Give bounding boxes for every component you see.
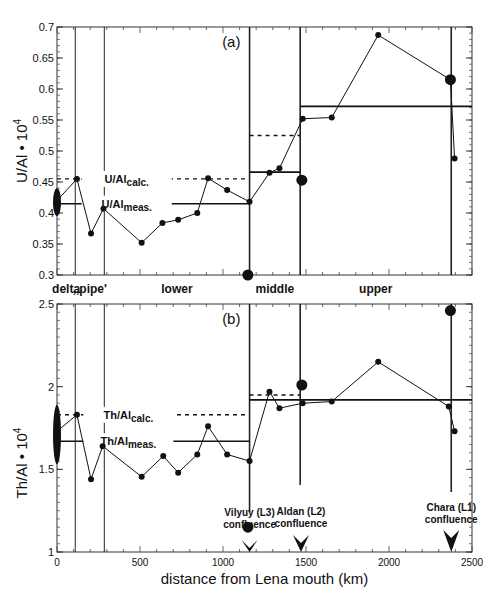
y-tick-label: 0.55 <box>33 114 54 126</box>
data-point <box>452 155 458 161</box>
y-tick-label: 0.45 <box>33 176 54 188</box>
data-point <box>205 175 211 181</box>
x-tick-label: 1000 <box>212 557 235 568</box>
y-axis-title: Th/Al • 104 <box>12 427 30 498</box>
data-point <box>88 476 94 482</box>
data-point <box>160 453 166 459</box>
svg-text:confluence: confluence <box>275 518 328 529</box>
confluence-arrow-icon <box>293 535 309 552</box>
tributary-point <box>242 270 253 281</box>
data-point <box>194 210 200 216</box>
data-point <box>375 32 381 38</box>
svg-text:confluence: confluence <box>425 514 478 525</box>
data-point <box>300 400 306 406</box>
panel-label: (a) <box>222 33 240 50</box>
data-point <box>175 470 181 476</box>
data-point <box>452 428 458 434</box>
river-sections: delta,,pipe'lowermiddleupper <box>52 282 393 296</box>
confluence-arrow-icon <box>242 540 258 552</box>
plot-frame <box>57 27 472 275</box>
confluence-label: Chara (L1) <box>427 502 476 513</box>
section-label: lower <box>161 282 193 296</box>
data-point <box>100 443 106 449</box>
x-tick-label: 500 <box>132 557 149 568</box>
x-tick-label: 1500 <box>295 557 318 568</box>
confluence-label: Aldan (L2) <box>277 506 326 517</box>
data-point <box>100 206 106 212</box>
confluence-label: Vilyuy (L3) <box>224 507 274 518</box>
y-axis-title: U/Al • 104 <box>12 118 30 183</box>
data-point <box>266 389 272 395</box>
data-point <box>74 412 80 418</box>
y-tick-label: 0.6 <box>39 83 54 95</box>
data-point <box>247 199 253 205</box>
data-point <box>446 404 452 410</box>
section-label: middle <box>256 282 295 296</box>
data-point <box>224 187 230 193</box>
data-point <box>276 165 282 171</box>
panel-label: (b) <box>222 310 240 327</box>
tributary-point <box>445 74 456 85</box>
panel-a-u-al: 0.30.350.40.450.50.550.60.650.7U/Al • 10… <box>12 21 472 281</box>
data-point <box>175 217 181 223</box>
data-point <box>88 230 94 236</box>
delta-range-marker <box>53 188 61 216</box>
confluence-markers: Vilyuy (L3)confluenceAldan (L2)confluenc… <box>223 502 478 552</box>
y-tick-label: 0.3 <box>39 269 54 281</box>
y-tick-label: 0.7 <box>39 21 54 33</box>
data-point <box>194 451 200 457</box>
y-tick-label: 2 <box>48 381 54 393</box>
x-axis-title: distance from Lena mouth (km) <box>161 570 369 587</box>
data-point <box>375 359 381 365</box>
data-point <box>329 399 335 405</box>
data-point <box>224 451 230 457</box>
section-label: upper <box>359 282 393 296</box>
confluence-arrow-icon <box>443 530 459 552</box>
y-tick-label: 0.35 <box>33 238 54 250</box>
data-point <box>139 474 145 480</box>
data-point <box>74 176 80 182</box>
data-point <box>139 240 145 246</box>
data-point <box>159 220 165 226</box>
y-tick-label: 1.5 <box>39 463 54 475</box>
x-tick-label: 0 <box>54 557 60 568</box>
tributary-point <box>445 305 456 316</box>
svg-text:confluence: confluence <box>223 519 276 530</box>
x-tick-label: 2000 <box>378 557 401 568</box>
tributary-point <box>296 380 307 391</box>
delta-range-marker <box>53 405 61 465</box>
data-point <box>300 116 306 122</box>
data-point <box>276 405 282 411</box>
lena-river-chart: 0.30.350.40.450.50.550.60.650.7U/Al • 10… <box>0 0 495 599</box>
x-axis: 05001000150020002500distance from Lena m… <box>54 557 483 587</box>
data-point <box>266 170 272 176</box>
tributary-point <box>296 175 307 186</box>
y-tick-label: 0.65 <box>33 52 54 64</box>
y-tick-label: 2.5 <box>39 298 54 310</box>
y-tick-label: 0.4 <box>39 207 54 219</box>
data-point <box>329 115 335 121</box>
y-tick-label: 0.5 <box>39 145 54 157</box>
data-point <box>205 423 211 429</box>
data-point <box>247 458 253 464</box>
section-label: ,,pipe' <box>73 282 107 296</box>
y-tick-label: 1 <box>48 546 54 558</box>
x-tick-label: 2500 <box>461 557 484 568</box>
